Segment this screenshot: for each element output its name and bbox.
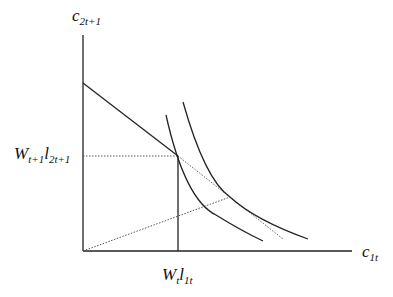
budget-line <box>83 83 178 156</box>
x-endowment-label: Wtl1t <box>162 265 193 286</box>
x-axis-label: c1t <box>362 242 378 263</box>
indifference-curve-high <box>183 102 308 239</box>
indifference-curve-low <box>166 115 263 241</box>
y-endowment-label: Wt+1l2t+1 <box>14 144 70 165</box>
ray-from-origin <box>83 197 230 251</box>
y-axis-label: c2t+1 <box>72 6 101 27</box>
